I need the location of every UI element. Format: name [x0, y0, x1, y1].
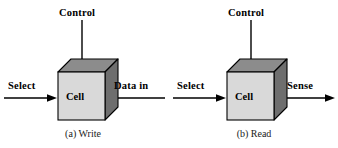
diagram-panel-write: Control Select Data in Cell (a) Write — [0, 0, 169, 148]
cell-label-write: Cell — [66, 91, 84, 102]
port-label-sense-read: Sense — [287, 80, 313, 91]
cell-label-read: Cell — [235, 91, 253, 102]
memory-cell-diagram: Control Select Data in Cell (a) Write — [0, 0, 338, 148]
memory-cell-cube-read — [227, 59, 287, 120]
panel-caption-write: (a) Write — [43, 128, 123, 139]
diagram-panel-read: Control Select Sense Cell (b) Read — [169, 0, 338, 148]
port-label-select-write: Select — [8, 80, 35, 91]
select-arrow-read — [173, 94, 226, 102]
select-arrow-write — [4, 94, 57, 102]
panel-caption-read: (b) Read — [214, 128, 294, 139]
port-label-control-write: Control — [59, 7, 95, 18]
port-label-data-in-write: Data in — [114, 80, 148, 91]
read-panel-graphics — [169, 0, 338, 148]
write-panel-graphics — [0, 0, 169, 148]
port-label-select-read: Select — [177, 80, 204, 91]
memory-cell-cube-write — [58, 59, 118, 120]
port-label-control-read: Control — [228, 7, 264, 18]
